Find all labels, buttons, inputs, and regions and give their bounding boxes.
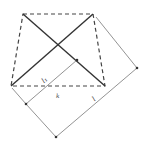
background	[0, 0, 149, 150]
point-p1	[76, 59, 79, 62]
label-k: k	[56, 92, 60, 99]
geometry-diagram: l₁ l k	[0, 0, 149, 150]
point-p3	[25, 103, 28, 106]
point-p4	[55, 136, 58, 139]
point-p2	[136, 67, 139, 70]
